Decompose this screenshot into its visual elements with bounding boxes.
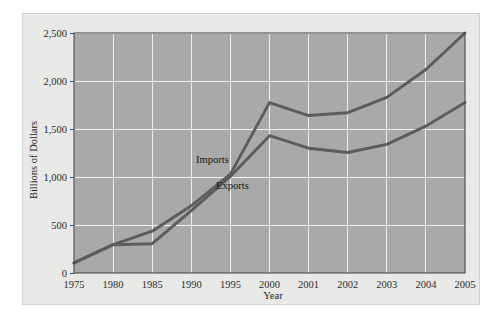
figure-root: 05001,0001,5002,0002,500 197519801985199… bbox=[0, 0, 502, 319]
x-axis-tick-labels: 1975198019851990199520002001200220032004… bbox=[64, 279, 476, 290]
chart-card: 05001,0001,5002,0002,500 197519801985199… bbox=[22, 13, 480, 305]
y-tick-label: 500 bbox=[51, 220, 67, 231]
x-axis-title: Year bbox=[263, 290, 283, 301]
line-chart: 05001,0001,5002,0002,500 197519801985199… bbox=[23, 14, 481, 306]
y-tick-label: 2,000 bbox=[43, 76, 67, 87]
x-tick-label: 2005 bbox=[455, 279, 476, 290]
y-tick-label: 0 bbox=[62, 268, 67, 279]
y-tick-label: 1,000 bbox=[43, 172, 67, 183]
x-tick-label: 1980 bbox=[103, 279, 124, 290]
x-tick-label: 2004 bbox=[415, 279, 437, 290]
x-tick-label: 1995 bbox=[220, 279, 241, 290]
y-axis-title: Billions of Dollars bbox=[28, 121, 39, 199]
x-tick-label: 1990 bbox=[181, 279, 202, 290]
series-label-exports: Exports bbox=[216, 180, 249, 191]
x-tick-label: 2001 bbox=[298, 279, 319, 290]
series-label-imports: Imports bbox=[196, 154, 229, 165]
y-tick-label: 1,500 bbox=[43, 124, 67, 135]
y-axis-tick-labels: 05001,0001,5002,0002,500 bbox=[43, 28, 74, 279]
y-tick-label: 2,500 bbox=[43, 28, 67, 39]
x-tick-label: 2000 bbox=[259, 279, 280, 290]
x-tick-label: 2002 bbox=[337, 279, 358, 290]
x-tick-label: 1985 bbox=[142, 279, 163, 290]
x-tick-label: 2003 bbox=[376, 279, 397, 290]
x-tick-label: 1975 bbox=[64, 279, 85, 290]
